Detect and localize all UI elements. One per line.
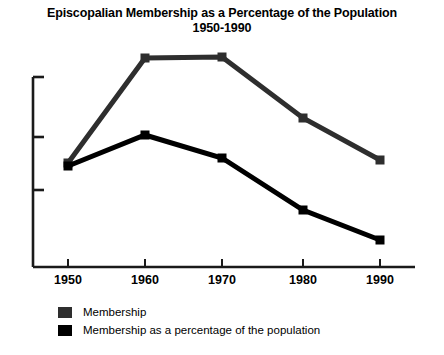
x-axis-tick-label: 1990 (355, 273, 405, 287)
chart-plot-area (0, 0, 444, 355)
data-point-marker (299, 206, 308, 215)
legend-item-label: Membership (83, 306, 146, 319)
legend-item-membership: Membership (58, 303, 438, 321)
x-axis-tick-label: 1980 (278, 273, 328, 287)
legend-item-label: Membership as a percentage of the popula… (83, 324, 320, 337)
x-axis-tick-label: 1960 (120, 273, 170, 287)
chart-legend: Membership Membership as a percentage of… (58, 303, 438, 339)
data-point-marker (299, 114, 308, 123)
data-point-marker (376, 236, 385, 245)
legend-swatch-icon (58, 307, 72, 318)
data-point-marker (376, 156, 385, 165)
x-axis-tick-label: 1970 (197, 273, 247, 287)
data-point-marker (141, 54, 150, 63)
legend-item-membership-percentage: Membership as a percentage of the popula… (58, 321, 438, 339)
data-series-group (64, 53, 385, 245)
x-axis-tick-label: 1950 (43, 273, 93, 287)
data-point-marker (218, 53, 227, 62)
data-point-marker (218, 154, 227, 163)
axes-group (33, 77, 415, 267)
data-point-marker (64, 162, 73, 171)
y-axis-ticks (33, 77, 44, 190)
legend-swatch-icon (58, 325, 72, 336)
series-line (68, 135, 380, 240)
chart-figure: Episcopalian Membership as a Percentage … (0, 0, 444, 355)
data-point-marker (141, 131, 150, 140)
